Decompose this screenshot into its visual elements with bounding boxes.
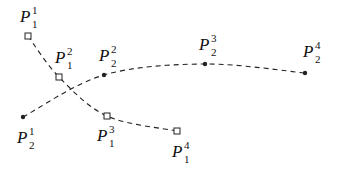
dot-marker-icon	[203, 62, 207, 66]
point-label-1-2: P21	[54, 45, 73, 71]
point-label-2-3: P32	[198, 32, 217, 58]
labels-layer: P11P21P31P41P12P22P32P42	[16, 4, 321, 165]
dot-marker-icon	[21, 115, 25, 119]
trajectory-diagram: P11P21P31P41P12P22P32P42	[0, 0, 343, 171]
path2-dashed-curve	[23, 64, 305, 117]
svg-text:1: 1	[184, 153, 190, 165]
dot-marker-icon	[102, 73, 106, 77]
dot-marker-icon	[303, 71, 307, 75]
svg-text:2: 2	[315, 53, 321, 65]
svg-text:2: 2	[111, 57, 117, 69]
point-label-2-4: P42	[302, 39, 321, 65]
square-marker-icon	[174, 128, 180, 134]
svg-text:2: 2	[211, 46, 217, 58]
point-label-2-2: P22	[98, 43, 117, 69]
svg-text:3: 3	[109, 123, 115, 135]
svg-text:2: 2	[67, 45, 73, 57]
svg-text:P: P	[98, 46, 109, 65]
svg-text:P: P	[171, 142, 182, 161]
svg-text:P: P	[19, 7, 30, 26]
svg-text:1: 1	[29, 125, 35, 137]
point-label-1-3: P31	[96, 123, 115, 149]
point-label-2-1: P12	[16, 125, 35, 151]
square-marker-icon	[56, 74, 62, 80]
svg-text:2: 2	[29, 139, 35, 151]
svg-text:P: P	[96, 126, 107, 145]
svg-text:3: 3	[211, 32, 217, 44]
svg-text:P: P	[198, 35, 209, 54]
svg-text:4: 4	[315, 39, 321, 51]
point-label-1-4: P41	[171, 139, 190, 165]
square-marker-icon	[25, 33, 31, 39]
svg-text:2: 2	[111, 43, 117, 55]
svg-text:1: 1	[67, 59, 73, 71]
point-label-1-1: P11	[19, 4, 38, 30]
svg-text:4: 4	[184, 139, 190, 151]
svg-text:1: 1	[32, 4, 38, 16]
svg-text:1: 1	[109, 137, 115, 149]
square-marker-icon	[104, 113, 110, 119]
svg-text:P: P	[16, 128, 27, 147]
svg-text:P: P	[302, 42, 313, 61]
svg-text:1: 1	[32, 18, 38, 30]
svg-text:P: P	[54, 48, 65, 67]
